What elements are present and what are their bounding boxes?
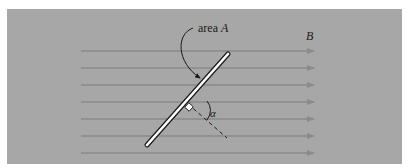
angle-label: α: [210, 108, 216, 119]
normal-vector: [188, 104, 227, 138]
magnetic-field-lines: [81, 51, 314, 153]
area-label: area A: [198, 22, 228, 34]
area-pointer-arrow: [181, 28, 200, 78]
field-label: B: [306, 30, 313, 42]
